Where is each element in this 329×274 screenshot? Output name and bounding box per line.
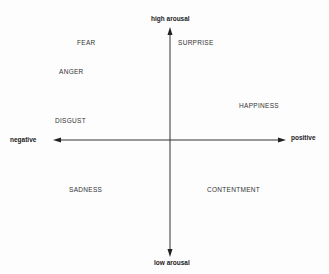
- positive-label: positive: [291, 134, 316, 141]
- negative-label: negative: [10, 136, 36, 143]
- axes-graphic: [0, 0, 329, 274]
- arrow-down-icon: [168, 249, 173, 257]
- arrow-up-icon: [168, 27, 173, 35]
- emotion-disgust: DISGUST: [55, 117, 86, 124]
- affect-diagram: high arousal low arousal negative positi…: [0, 0, 329, 274]
- emotion-anger: ANGER: [59, 68, 84, 75]
- emotion-fear: FEAR: [77, 39, 96, 46]
- low-arousal-label: low arousal: [154, 259, 190, 266]
- emotion-contentment: CONTENTMENT: [207, 186, 260, 193]
- emotion-surprise: SURPRISE: [178, 39, 214, 46]
- emotion-sadness: SADNESS: [69, 186, 102, 193]
- high-arousal-label: high arousal: [151, 15, 190, 22]
- emotion-happiness: HAPPINESS: [239, 102, 279, 109]
- vertical-axis: [168, 27, 173, 257]
- arrow-left-icon: [53, 138, 61, 143]
- arrow-right-icon: [278, 138, 286, 143]
